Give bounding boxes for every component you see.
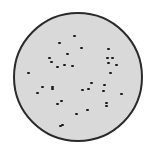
colony-dot <box>81 89 84 91</box>
colony-dot <box>115 64 118 66</box>
colony-dot <box>27 72 30 74</box>
colony-dot <box>86 109 89 111</box>
colony-dot <box>36 92 39 94</box>
colony-dot <box>63 64 66 66</box>
image-canvas <box>0 0 155 153</box>
colony-dot <box>66 53 69 55</box>
colony-dot <box>107 48 110 50</box>
colony-dot <box>80 47 83 49</box>
colony-dot <box>71 65 74 67</box>
colony-dot <box>106 57 109 59</box>
petri-dish <box>13 12 143 142</box>
colony-dot <box>111 57 114 59</box>
colony-dot <box>109 72 112 74</box>
colony-dot <box>107 62 110 64</box>
colony-dot <box>48 57 51 59</box>
colony-dot <box>87 88 90 90</box>
colony-dot <box>50 61 53 63</box>
colony-dot <box>73 35 76 37</box>
colony-dot <box>90 82 93 84</box>
colony-dot <box>105 105 108 107</box>
colony-dot <box>102 90 105 92</box>
colony-dot <box>61 124 64 126</box>
colony-dot <box>75 113 78 115</box>
colony-dot <box>105 102 108 104</box>
colony-dot <box>120 93 123 95</box>
colony-dot <box>103 84 106 86</box>
colony-dot <box>56 103 59 105</box>
colony-dot <box>60 100 63 102</box>
colony-dot <box>56 66 59 68</box>
colony-dot <box>41 86 44 88</box>
colony-dot <box>51 88 54 90</box>
colony-dot <box>58 42 61 44</box>
